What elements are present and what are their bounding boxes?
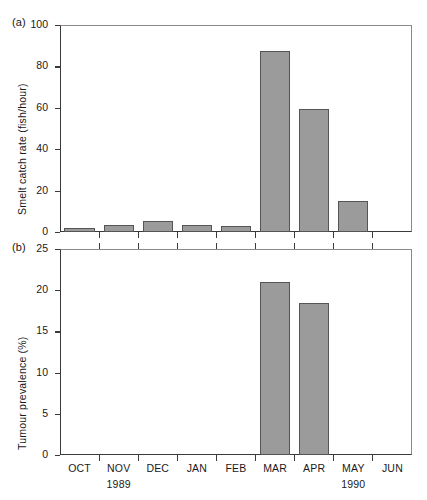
panel-b-y-tick-label: 15 — [8, 324, 48, 336]
panel-b-x-tick — [138, 455, 139, 461]
panel-a-bar — [104, 225, 134, 232]
panel-a-x-tick — [138, 232, 139, 238]
panel-b-y-tick-label: 25 — [8, 242, 48, 254]
panel-a-y-tick-mark — [55, 66, 60, 67]
x-axis-month-label: JUN — [373, 462, 412, 474]
panel-a-y-tick-mark — [55, 25, 60, 26]
panel-a-y-tick-label: 20 — [8, 184, 48, 196]
panel-a-x-tick — [372, 232, 373, 238]
panel-b-y-tick-mark — [55, 414, 60, 415]
x-axis-month-label: APR — [295, 462, 334, 474]
panel-b-y-tick-label: 5 — [8, 407, 48, 419]
x-axis-year-label: 1990 — [334, 478, 373, 490]
x-axis-year-label: 1989 — [99, 478, 138, 490]
x-axis-month-label: MAY — [334, 462, 373, 474]
panel-a-y-tick-mark — [55, 232, 60, 233]
panel-a-y-tick-mark — [55, 149, 60, 150]
panel-a-x-tick — [255, 232, 256, 238]
panel-b-x-tick-upper — [294, 243, 295, 249]
panel-b-y-tick-mark — [55, 290, 60, 291]
panel-a-x-tick — [294, 232, 295, 238]
panel-a-bar — [221, 226, 251, 232]
panel-a-bar — [338, 201, 368, 232]
panel-b-x-tick-upper — [216, 243, 217, 249]
x-axis-month-label: JAN — [177, 462, 216, 474]
panel-b-x-tick-upper — [372, 243, 373, 249]
panel-b-plot-area — [60, 249, 412, 455]
x-axis-month-label: MAR — [256, 462, 295, 474]
panel-b-x-tick-upper — [333, 243, 334, 249]
x-axis-month-label: OCT — [60, 462, 99, 474]
panel-b-x-tick-upper — [99, 243, 100, 249]
panel-a-x-tick — [177, 232, 178, 238]
panel-b-x-tick — [177, 455, 178, 461]
panel-a-y-tick-label: 100 — [8, 18, 48, 30]
panel-a-y-tick-mark — [55, 191, 60, 192]
panel-a-x-tick — [216, 232, 217, 238]
x-axis-month-label: FEB — [216, 462, 255, 474]
panel-a-y-tick-label: 60 — [8, 101, 48, 113]
panel-a-bar — [64, 228, 94, 232]
panel-a-bar — [182, 225, 212, 232]
panel-b-x-tick-upper — [138, 243, 139, 249]
panel-a-x-tick — [333, 232, 334, 238]
panel-b-x-tick — [99, 455, 100, 461]
x-axis-month-label: DEC — [138, 462, 177, 474]
panel-b-x-tick — [372, 455, 373, 461]
panel-b-x-tick — [333, 455, 334, 461]
panel-b-x-tick — [294, 455, 295, 461]
panel-b-bar — [260, 282, 290, 455]
panel-b-y-tick-label: 20 — [8, 283, 48, 295]
panel-b-x-tick — [255, 455, 256, 461]
panel-b-y-tick-mark — [55, 249, 60, 250]
figure: (a) Smelt catch rate (fish/hour) (b) Tum… — [0, 0, 427, 500]
panel-a-bar — [143, 221, 173, 232]
panel-a-y-tick-mark — [55, 108, 60, 109]
panel-a-x-tick — [99, 232, 100, 238]
panel-b-y-tick-mark — [55, 373, 60, 374]
panel-b: (b) Tumour prevalence (%) — [0, 240, 427, 500]
x-axis-month-label: NOV — [99, 462, 138, 474]
panel-b-x-tick-upper — [177, 243, 178, 249]
panel-a-bar — [260, 51, 290, 232]
panel-b-y-axis-title: Tumour prevalence (%) — [16, 336, 28, 450]
panel-b-y-tick-mark — [55, 455, 60, 456]
panel-a-y-tick-label: 40 — [8, 142, 48, 154]
panel-a-bar — [299, 109, 329, 232]
panel-a-y-tick-label: 80 — [8, 59, 48, 71]
panel-a-y-tick-label: 0 — [8, 225, 48, 237]
panel-b-x-tick-upper — [255, 243, 256, 249]
panel-b-bar — [299, 303, 329, 455]
panel-b-x-tick — [216, 455, 217, 461]
panel-b-y-tick-label: 10 — [8, 366, 48, 378]
panel-b-y-tick-mark — [55, 331, 60, 332]
panel-b-y-tick-label: 0 — [8, 448, 48, 460]
